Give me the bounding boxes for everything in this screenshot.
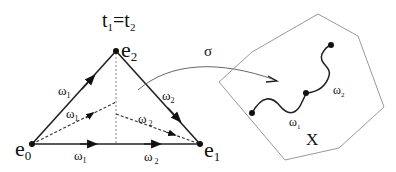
sigma-label: σ [204, 43, 212, 59]
path-omega1-label: ω1 [289, 115, 301, 131]
vertex-e2-dot [113, 48, 119, 54]
vertex-e0-label: e0 [15, 136, 31, 163]
path-omega2-label: ω2 [333, 83, 345, 99]
vertex-e2-label: e2 [121, 37, 137, 64]
omega-inner-left: ω1 [66, 106, 79, 123]
title-label: t1=t2 [102, 9, 135, 33]
path-end-dot [328, 42, 334, 48]
path-omega2 [306, 45, 331, 93]
arrow-inner-right [166, 132, 175, 135]
omega-bottom-right: ω 2 [144, 149, 159, 166]
vertex-e1-label: e1 [204, 137, 220, 164]
path-mid-dot [303, 90, 309, 96]
path-omega1 [252, 93, 306, 113]
arrow-right-edge [168, 108, 180, 121]
omega-inner-right: ω 2 [138, 111, 153, 128]
dashed-internal-lines [32, 53, 200, 144]
omega-bottom-left: ω1 [74, 148, 87, 165]
space-x-label: X [306, 130, 318, 149]
map-sigma-arrow [138, 67, 275, 90]
edge-e0-e2 [32, 51, 116, 144]
path-start-dot [249, 110, 255, 116]
edge-e2-e1 [116, 51, 200, 144]
space-x-boundary [219, 14, 384, 160]
arrow-inner-left [86, 113, 93, 118]
simplex-map-diagram: t1=t2 e2 e0 e1 ω1 ω2 ω1 ω 2 ω1 ω 2 σ ω1 … [0, 0, 396, 172]
vertex-e1-dot [197, 141, 203, 147]
arrow-left-edge [82, 76, 94, 89]
vertex-e0-dot [29, 141, 35, 147]
omega-right-edge: ω2 [162, 88, 175, 105]
omega-left-edge: ω1 [58, 83, 71, 100]
